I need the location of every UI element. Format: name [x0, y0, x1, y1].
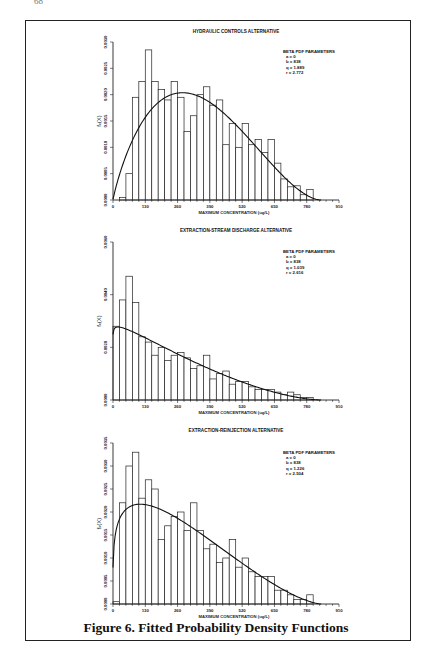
y-tick-label: 0.0035 [103, 436, 108, 449]
histogram-bar [178, 512, 184, 604]
histogram-bar [255, 576, 261, 604]
histogram-bars [113, 452, 313, 604]
y-tick-label: 0.0025 [103, 482, 108, 495]
x-tick-label: 130 [142, 608, 150, 613]
y-tick-label: 0.0010 [103, 551, 108, 564]
histogram-bar [158, 540, 164, 604]
x-axis-label: MAXIMUM CONCENTRATION (ug/L) [199, 614, 270, 619]
y-tick-label: 0.0005 [103, 574, 108, 587]
histogram-bar [132, 452, 138, 604]
x-tick-label: 390 [206, 608, 214, 613]
chart-title: EXTRACTION-REINJECTION ALTERNATIVE [189, 428, 284, 433]
histogram-bar [171, 517, 177, 604]
histogram-bar [294, 599, 300, 604]
y-tick-label: 0.0015 [103, 528, 108, 541]
histogram-bar [165, 526, 171, 604]
histogram-bar [216, 563, 222, 604]
histogram-bar [210, 544, 216, 604]
x-tick-label: 520 [239, 608, 247, 613]
x-tick-label: 0 [112, 608, 115, 613]
x-tick-label: 260 [174, 608, 182, 613]
histogram-bar [287, 595, 293, 604]
histogram-bar [145, 480, 151, 604]
histogram-bar [184, 530, 190, 604]
histogram-bar [223, 558, 229, 604]
y-axis-label: fₓ(X) [96, 518, 102, 530]
legend-line: r = 2.504 [286, 471, 304, 476]
chart-svg: EXTRACTION-REINJECTION ALTERNATIVE013026… [0, 0, 432, 662]
figure-caption: Figure 6. Fitted Probability Density Fun… [0, 620, 432, 636]
histogram-bar [249, 572, 255, 604]
histogram-bar [236, 567, 242, 604]
legend-beta-parameters: BETA PDF PARAMETERSa = 0b = 838q = 1.226… [283, 450, 335, 476]
histogram-bar [126, 466, 132, 604]
histogram-bar [203, 549, 209, 604]
histogram-bar [190, 503, 196, 604]
histogram-bar [281, 590, 287, 604]
histogram-bar [229, 540, 235, 604]
y-tick-label: 0.0000 [103, 597, 108, 610]
histogram-bar [197, 530, 203, 604]
x-tick-label: 910 [335, 608, 343, 613]
histogram-bar [139, 498, 145, 604]
x-tick-label: 780 [303, 608, 311, 613]
y-tick-label: 0.0030 [103, 459, 108, 472]
histogram-bar [274, 590, 280, 604]
y-tick-label: 0.0020 [103, 505, 108, 518]
x-tick-label: 650 [271, 608, 279, 613]
